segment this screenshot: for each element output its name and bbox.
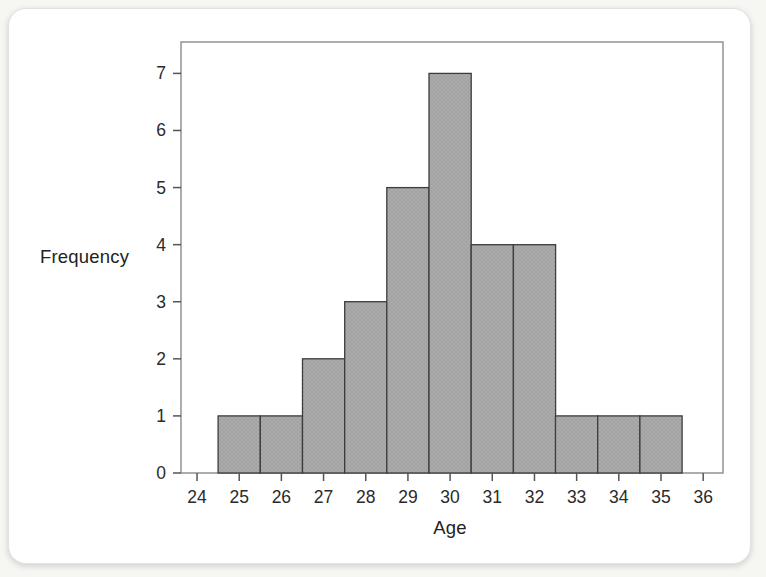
- y-tick-label: 3: [156, 292, 166, 312]
- x-tick-label: 34: [609, 487, 629, 507]
- y-axis-label: Frequency: [40, 246, 129, 268]
- histogram-bar-33: [556, 416, 598, 473]
- x-tick-label: 24: [187, 487, 207, 507]
- y-tick-label: 1: [156, 406, 166, 426]
- x-tick-label: 33: [567, 487, 586, 507]
- page-background: 2425262728293031323334353601234567 Frequ…: [0, 0, 766, 577]
- y-tick-label: 0: [156, 463, 166, 483]
- x-tick-label: 36: [693, 487, 712, 507]
- histogram-bar-30: [429, 73, 471, 473]
- x-tick-label: 32: [525, 487, 544, 507]
- y-tick-label: 2: [156, 349, 166, 369]
- histogram-bar-26: [260, 416, 302, 473]
- x-tick-label: 31: [483, 487, 502, 507]
- x-tick-label: 35: [651, 487, 670, 507]
- y-tick-label: 4: [156, 235, 166, 255]
- x-tick-label: 28: [356, 487, 375, 507]
- x-tick-label: 26: [272, 487, 291, 507]
- histogram-chart: 2425262728293031323334353601234567: [0, 0, 766, 577]
- histogram-bar-31: [471, 245, 513, 473]
- histogram-bar-34: [598, 416, 640, 473]
- histogram-bar-29: [387, 188, 429, 473]
- y-tick-label: 7: [156, 63, 166, 83]
- histogram-bar-25: [218, 416, 260, 473]
- histogram-bar-35: [640, 416, 682, 473]
- y-tick-label: 5: [156, 178, 166, 198]
- x-tick-label: 30: [440, 487, 460, 507]
- x-tick-label: 25: [229, 487, 248, 507]
- histogram-bar-32: [513, 245, 555, 473]
- x-tick-label: 29: [398, 487, 417, 507]
- histogram-bar-27: [303, 359, 345, 473]
- histogram-bar-28: [345, 302, 387, 473]
- y-tick-label: 6: [156, 120, 166, 140]
- x-axis-label: Age: [400, 517, 500, 539]
- x-tick-label: 27: [314, 487, 333, 507]
